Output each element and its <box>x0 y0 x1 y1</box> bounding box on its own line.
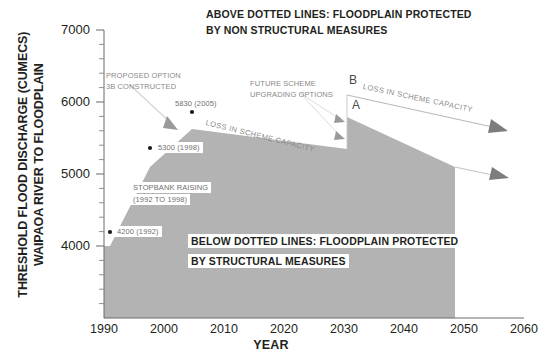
y-tick-label-4000: 4000 <box>36 238 90 253</box>
point-label-1998: 5300 (1998) <box>155 142 203 153</box>
y-tick-label-7000: 7000 <box>36 22 90 37</box>
data-point-2005 <box>190 110 194 114</box>
option-b-arrowhead <box>488 119 508 133</box>
data-point-1998 <box>148 146 152 150</box>
y-tick-label-6000: 6000 <box>36 94 90 109</box>
callout-future-scheme-line1: FUTURE SCHEME <box>250 79 316 90</box>
below-note-line1: BELOW DOTTED LINES: FLOODPLAIN PROTECTED <box>188 234 461 248</box>
callout-proposed-option-line1: PROPOSED OPTION <box>106 71 181 82</box>
callout-stopbank-line1: STOPBANK RAISING <box>130 182 211 193</box>
y-tick-label-5000: 5000 <box>36 166 90 181</box>
future-scheme-arrowhead-lower <box>334 131 345 140</box>
x-tick-label-2060: 2060 <box>500 322 542 336</box>
header-note-line2: BY NON STRUCTURAL MEASURES <box>206 24 387 36</box>
x-tick-label-2020: 2020 <box>260 322 308 336</box>
point-label-1992: 4200 (1992) <box>114 226 162 237</box>
plot-area <box>0 0 542 364</box>
option-a-letter: A <box>352 98 360 112</box>
x-tick-label-2050: 2050 <box>440 322 488 336</box>
chart-container: THRESHOLD FLOOD DISCHARGE (CUMECS) WAIPA… <box>0 0 542 364</box>
future-scheme-arrowhead-upper <box>334 114 345 123</box>
x-tick-label-2030: 2030 <box>320 322 368 336</box>
callout-proposed-option-line2: 3B CONSTRUCTED <box>106 82 176 93</box>
x-tick-label-2010: 2010 <box>200 322 248 336</box>
option-b-letter: B <box>349 73 357 87</box>
x-tick-label-2040: 2040 <box>380 322 428 336</box>
option-a-arrowhead <box>489 167 509 180</box>
header-note-line1: ABOVE DOTTED LINES: FLOODPLAIN PROTECTED <box>206 8 472 20</box>
x-axis-title: YEAR <box>0 338 542 352</box>
x-tick-label-2000: 2000 <box>140 322 188 336</box>
callout-future-scheme-line2: UPGRADING OPTIONS <box>250 90 333 101</box>
point-label-2005: 5830 (2005) <box>175 99 217 108</box>
x-tick-label-1990: 1990 <box>80 322 128 336</box>
data-point-1992 <box>108 230 112 234</box>
below-note-line2: BY STRUCTURAL MEASURES <box>188 254 349 268</box>
callout-stopbank-line2: (1992 TO 1998) <box>130 194 190 205</box>
y-major-ticks <box>96 30 104 246</box>
